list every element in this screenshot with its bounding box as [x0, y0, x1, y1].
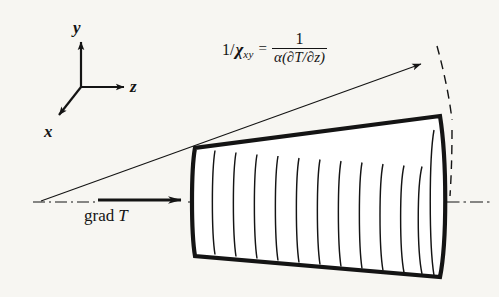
physics-diagram-figure: y z x gradT 1/χxy = 1 α(∂T/∂z) — [0, 0, 499, 297]
formula-equals-sign: = — [254, 41, 272, 56]
outer-radius-dashed-arc-lower — [450, 130, 452, 196]
formula-denominator: α(∂T/∂z) — [272, 49, 327, 65]
formula-denominator-alpha: α — [274, 49, 282, 65]
grad-t-variable: T — [114, 206, 127, 225]
coordinate-axes — [59, 42, 124, 115]
formula-left-side: 1/χxy — [222, 41, 254, 58]
formula-reciprocal-prefix: 1/ — [222, 42, 234, 58]
x-axis-label: x — [44, 123, 53, 140]
formula-fraction: 1 α(∂T/∂z) — [272, 31, 327, 65]
formula-chi-subscript: xy — [243, 49, 253, 60]
y-axis-label: y — [73, 19, 81, 36]
z-axis-label: z — [130, 78, 137, 95]
outer-radius-dashed-arc — [437, 46, 452, 120]
grad-t-label: gradT — [84, 207, 128, 224]
susceptibility-formula: 1/χxy = 1 α(∂T/∂z) — [222, 32, 327, 66]
formula-numerator: 1 — [290, 31, 310, 48]
formula-denominator-rest: (∂T/∂z) — [282, 49, 325, 65]
x-axis-arrow — [59, 87, 81, 115]
grad-t-text: grad — [84, 206, 114, 225]
